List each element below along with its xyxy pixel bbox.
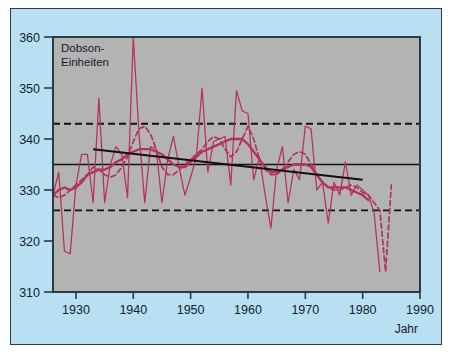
- x-tick-label-1930: 1930: [62, 303, 90, 317]
- x-axis-label: Jahr: [395, 322, 418, 336]
- x-tick-label-1970: 1970: [291, 303, 319, 317]
- x-tick-label-1960: 1960: [234, 303, 262, 317]
- figure-root: 3103203303403503601930194019501960197019…: [0, 0, 452, 360]
- y-tick-label-320: 320: [19, 235, 40, 249]
- ozone-timeseries-chart: 3103203303403503601930194019501960197019…: [0, 0, 452, 360]
- y-tick-label-310: 310: [19, 286, 40, 300]
- x-tick-label-1980: 1980: [349, 303, 377, 317]
- y-tick-label-360: 360: [19, 31, 40, 45]
- y-tick-label-330: 330: [19, 184, 40, 198]
- y-axis-unit-label-line2: Einheiten: [61, 56, 109, 68]
- x-tick-label-1950: 1950: [177, 303, 205, 317]
- x-tick-label-1940: 1940: [119, 303, 147, 317]
- y-axis-unit-label-line1: Dobson-: [61, 42, 105, 54]
- y-tick-label-340: 340: [19, 133, 40, 147]
- x-tick-label-1990: 1990: [406, 303, 434, 317]
- y-tick-label-350: 350: [19, 82, 40, 96]
